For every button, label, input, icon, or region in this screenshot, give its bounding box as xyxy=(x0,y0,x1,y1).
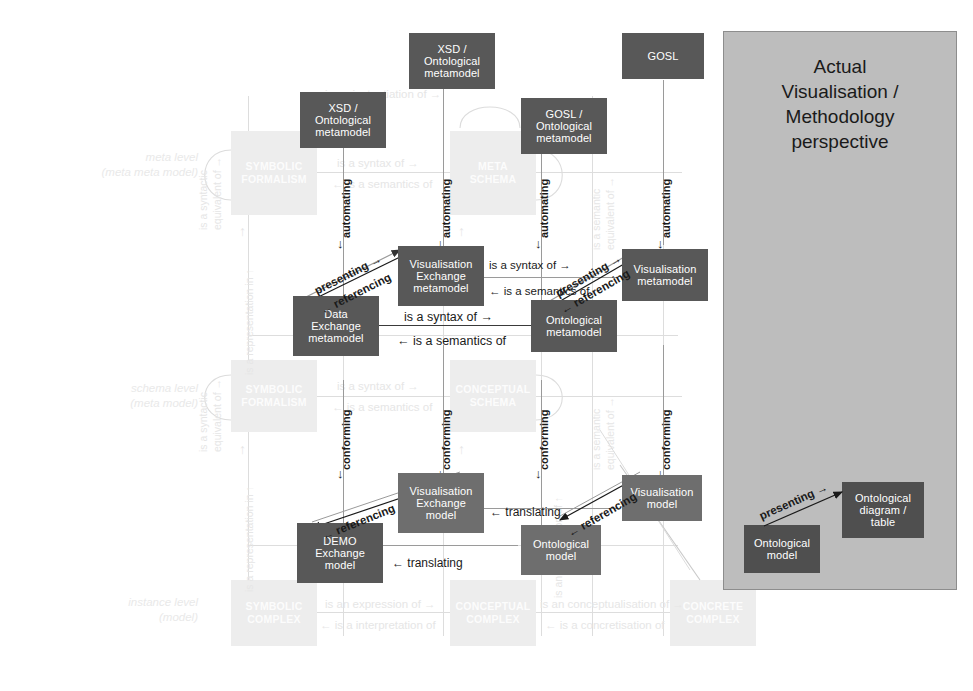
relation-conforming-4: conforming xyxy=(660,410,674,471)
panel-presenting-arrow xyxy=(724,32,956,589)
box-ontological-model[interactable]: Ontological model xyxy=(521,525,601,575)
relation-translating-vis-model: ← translating xyxy=(490,505,561,520)
box-gosl[interactable]: GOSL xyxy=(622,33,704,79)
arrowhead-down-automating-3: ↓ xyxy=(535,236,542,252)
relation-automating-2: automating xyxy=(440,179,454,238)
relation-automating-4: automating xyxy=(660,179,674,238)
box-xsd-ontological-metamodel-top[interactable]: XSD / Ontological metamodel xyxy=(409,33,495,89)
box-visualisation-metamodel[interactable]: Visualisation metamodel xyxy=(622,249,708,301)
relation-automating-1: automating xyxy=(340,179,354,238)
box-visualisation-exchange-model[interactable]: Visualisation Exchange model xyxy=(398,473,484,533)
actual-visualisation-methodology-panel: Actual Visualisation / Methodology persp… xyxy=(723,31,957,590)
box-gosl-ontological-metamodel[interactable]: GOSL / Ontological metamodel xyxy=(521,98,607,154)
relation-syntax-of-vis-metamodel: is a syntax of → xyxy=(489,258,571,272)
relation-syntax-of-metamodel: is a syntax of → xyxy=(404,310,493,326)
relation-conforming-3: conforming xyxy=(538,410,552,471)
relation-automating-3: automating xyxy=(538,179,552,238)
arrowhead-down-automating-1: ↓ xyxy=(337,236,344,252)
relation-semantics-of-metamodel: ← is a semantics of xyxy=(397,334,506,350)
box-xsd-ontological-metamodel-left[interactable]: XSD / Ontological metamodel xyxy=(300,92,386,148)
diagram-canvas: meta level (meta meta model) schema leve… xyxy=(0,0,973,691)
relation-conforming-2: conforming xyxy=(440,410,454,471)
relation-translating-demo-model: ← translating xyxy=(392,556,463,571)
box-visualisation-exchange-metamodel[interactable]: Visualisation Exchange metamodel xyxy=(398,246,484,306)
relation-conforming-1: conforming xyxy=(340,410,354,471)
